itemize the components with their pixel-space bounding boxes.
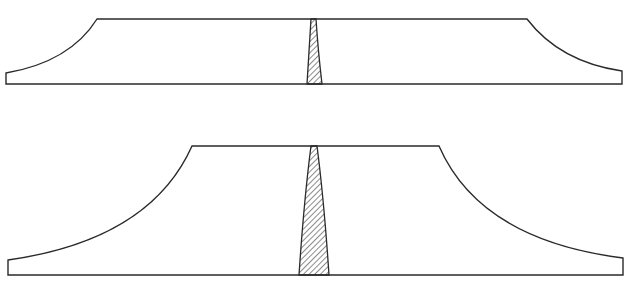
diagram-canvas xyxy=(0,0,632,288)
top-profile xyxy=(6,19,622,84)
bottom-profile xyxy=(8,146,623,275)
top-hatched-wedge xyxy=(307,19,322,84)
bottom-hatched-wedge xyxy=(299,146,329,275)
